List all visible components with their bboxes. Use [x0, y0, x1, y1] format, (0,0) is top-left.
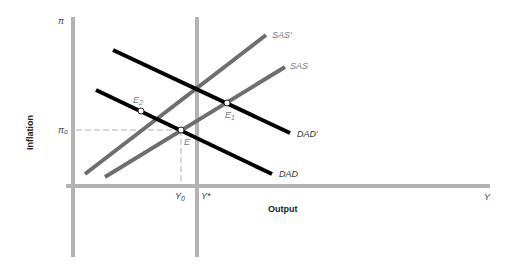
pi0-label: π₀ [58, 125, 68, 135]
ystar-label: Y* [201, 191, 211, 201]
output-axis-title: Output [268, 204, 298, 214]
y0-label: Y0 [175, 191, 185, 202]
y-axis-symbol: Y [484, 192, 491, 202]
sas-prime-curve [85, 35, 266, 174]
e1-label: E1 [225, 110, 235, 121]
sas-label: SAS [290, 61, 308, 71]
equilibrium-point-e1 [224, 100, 230, 106]
dad-label: DAD [279, 169, 299, 179]
pi-axis-symbol: π [58, 16, 65, 26]
sas-prime-label: SAS′ [272, 30, 292, 40]
ad-as-diagram: π Inflation π₀ SAS′ SAS DAD′ DAD E2 E1 E… [0, 0, 516, 271]
e-label: E [184, 137, 191, 147]
e2-label: E2 [133, 95, 143, 106]
dad-prime-curve [113, 50, 290, 133]
inflation-axis-title: Inflation [25, 115, 35, 150]
dad-prime-label: DAD′ [297, 129, 318, 139]
equilibrium-point-e2 [138, 108, 144, 114]
equilibrium-point-e [178, 127, 184, 133]
dad-curve [96, 90, 272, 174]
